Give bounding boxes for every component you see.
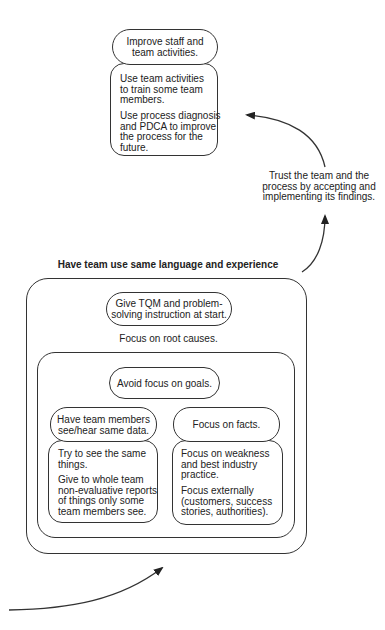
facts-detail-box: Focus on weakness and best industry prac… — [172, 440, 283, 525]
improve-header-pill: Improve staff and team activities. — [112, 29, 218, 65]
language-group-title: Have team use same language and experien… — [26, 259, 310, 270]
tqm-instruction-pill: Give TQM and problem- solving instructio… — [106, 292, 232, 326]
facts-header-pill: Focus on facts. — [173, 407, 280, 442]
trust-note: Trust the team and the process by accept… — [260, 171, 378, 203]
improve-paragraph-2: Use process diagnosis and PDCA to improv… — [120, 111, 221, 153]
same-data-detail-box: Try to see the same things. Give to whol… — [48, 440, 158, 523]
improve-paragraph-1: Use team activities to train some team m… — [120, 74, 204, 106]
avoid-goals-pill: Avoid focus on goals. — [109, 367, 220, 399]
same-data-paragraph-2: Give to whole team non-evaluative report… — [58, 475, 157, 517]
same-data-paragraph-1: Try to see the same things. — [58, 449, 146, 470]
same-data-header-pill: Have team members see/hear same data. — [50, 407, 157, 442]
arrow-trust-to-improve-icon — [247, 115, 325, 167]
facts-paragraph-2: Focus externally (customers, success sto… — [181, 486, 272, 518]
improve-detail-box: Use team activities to train some team m… — [110, 63, 218, 156]
root-causes-label: Focus on root causes. — [26, 334, 311, 345]
arrow-into-language-group-icon — [9, 568, 162, 610]
facts-paragraph-1: Focus on weakness and best industry prac… — [181, 449, 269, 481]
